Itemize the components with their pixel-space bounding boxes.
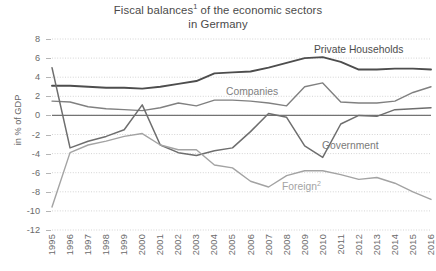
plot-area — [52, 39, 431, 230]
x-axis-tick-label: 2005 — [227, 234, 237, 255]
x-axis-tick-label: 2004 — [209, 234, 219, 255]
x-axis-tick-label: 2009 — [300, 234, 310, 255]
x-axis-tick-label: 2015 — [408, 234, 418, 255]
y-axis-tick-label: -12 — [14, 225, 40, 235]
y-axis-tick-mark — [46, 135, 51, 136]
chart-title-line1-main: Fiscal balances — [114, 4, 193, 16]
plot-svg — [52, 39, 431, 230]
y-axis-tick-mark — [46, 192, 51, 193]
x-axis-tick-label: 1996 — [65, 234, 75, 255]
y-axis-tick-mark — [46, 77, 51, 78]
y-axis-tick-label: 0 — [14, 110, 40, 120]
y-axis-tick-label: -4 — [14, 149, 40, 159]
series-label-private-households: Private Households — [314, 44, 403, 55]
y-axis-tick-mark — [46, 96, 51, 97]
gridlines — [52, 39, 431, 230]
x-axis-tick-label: 2002 — [173, 234, 183, 255]
y-axis-tick-label: -8 — [14, 187, 40, 197]
chart-title-line1-rest: of the economic sectors — [197, 4, 322, 16]
x-axis-tick-label: 2003 — [191, 234, 201, 255]
x-axis-tick-label: 1999 — [119, 234, 129, 255]
x-axis-tick-label: 1997 — [83, 234, 93, 255]
x-axis-tick-label: 2011 — [336, 234, 346, 255]
series-label-private-households-text: Private Households — [314, 44, 403, 55]
y-axis-tick-mark — [46, 58, 51, 59]
series-line-private-households — [52, 57, 431, 89]
y-axis-tick-mark — [46, 230, 51, 231]
series-label-foreign-text: Foreign — [282, 181, 317, 192]
x-axis-tick-label: 2000 — [137, 234, 147, 255]
series-label-companies-text: Companies — [226, 86, 278, 97]
y-axis-tick-label: -6 — [14, 168, 40, 178]
series-label-foreign-footnote-marker: 2 — [317, 180, 321, 187]
series-lines — [52, 57, 431, 207]
y-axis-tick-label: -2 — [14, 130, 40, 140]
y-axis-tick-label: 4 — [14, 72, 40, 82]
x-axis-tick-label: 2007 — [264, 234, 274, 255]
y-axis-tick-mark — [46, 173, 51, 174]
x-axis-tick-label: 2013 — [372, 234, 382, 255]
series-label-companies: Companies — [226, 86, 278, 97]
y-axis-tick-mark — [46, 154, 51, 155]
y-axis-tick-mark — [46, 211, 51, 212]
chart-container: Fiscal balances1 of the economic sectors… — [0, 0, 436, 271]
x-axis-tick-label: 1998 — [101, 234, 111, 255]
y-axis-tick-label: 8 — [14, 34, 40, 44]
x-axis-tick-label: 2012 — [354, 234, 364, 255]
x-axis-tick-label: 2006 — [246, 234, 256, 255]
y-axis-tick-label: 2 — [14, 91, 40, 101]
y-axis-tick-mark — [46, 115, 51, 116]
x-axis-tick-label: 1995 — [47, 234, 57, 255]
x-axis-tick-label: 2010 — [318, 234, 328, 255]
x-axis-tick-label: 2016 — [426, 234, 436, 255]
x-axis-tick-label: 2014 — [390, 234, 400, 255]
chart-title: Fiscal balances1 of the economic sectors… — [0, 3, 436, 31]
chart-title-line2: in Germany — [188, 18, 247, 30]
series-label-government-text: Government — [322, 140, 379, 151]
y-axis-tick-mark — [46, 39, 51, 40]
y-axis-tick-label: -10 — [14, 206, 40, 216]
x-axis-tick-label: 2008 — [282, 234, 292, 255]
y-axis-tick-label: 6 — [14, 53, 40, 63]
series-label-foreign: Foreign2 — [282, 181, 321, 192]
x-axis-tick-label: 2001 — [155, 234, 165, 255]
series-label-government: Government — [322, 140, 379, 151]
